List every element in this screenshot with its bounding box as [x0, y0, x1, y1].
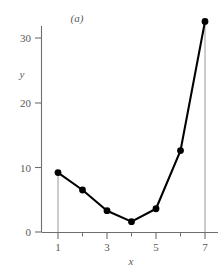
- x-axis-title: x: [128, 255, 134, 267]
- y-axis-title: y: [19, 68, 25, 80]
- data-point: [177, 147, 184, 154]
- y-tick-label-30: 30: [20, 32, 32, 44]
- y-tick-label-0: 0: [26, 226, 32, 238]
- data-point: [55, 169, 62, 176]
- x-tick-label-7: 7: [202, 241, 208, 253]
- chart-background: [0, 0, 224, 267]
- y-tick-label-10: 10: [20, 162, 32, 174]
- x-tick-label-5: 5: [153, 241, 159, 253]
- x-tick-label-1: 1: [55, 241, 61, 253]
- data-point: [104, 207, 111, 214]
- panel-label: (a): [71, 12, 84, 25]
- data-point: [202, 18, 209, 25]
- data-point: [79, 187, 86, 194]
- x-tick-label-3: 3: [104, 241, 110, 253]
- chart-figure: 30 20 10 0 y 1 3 5 7 x (a): [0, 0, 224, 267]
- y-tick-label-20: 20: [20, 97, 32, 109]
- data-point: [128, 218, 135, 225]
- line-chart: 30 20 10 0 y 1 3 5 7 x (a): [0, 0, 224, 267]
- data-point: [153, 205, 160, 212]
